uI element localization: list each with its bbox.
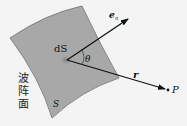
point-p-dot: [167, 89, 170, 92]
label-n-subscript: n: [115, 15, 118, 21]
label-S: S: [53, 99, 59, 109]
label-r: r: [133, 69, 139, 80]
label-wavefront-2: 阵: [18, 84, 29, 98]
label-wavefront-1: 波: [18, 72, 29, 85]
diagram-canvas: dS θ e n r P S 波 阵 面: [0, 0, 187, 126]
label-theta: θ: [85, 54, 91, 64]
wavefront-diagram: dS θ e n r P S 波 阵 面: [0, 0, 187, 126]
label-wavefront-3: 面: [18, 98, 29, 111]
label-dS: dS: [54, 43, 67, 54]
label-P: P: [171, 84, 179, 95]
surface-element-spot: [60, 55, 72, 65]
